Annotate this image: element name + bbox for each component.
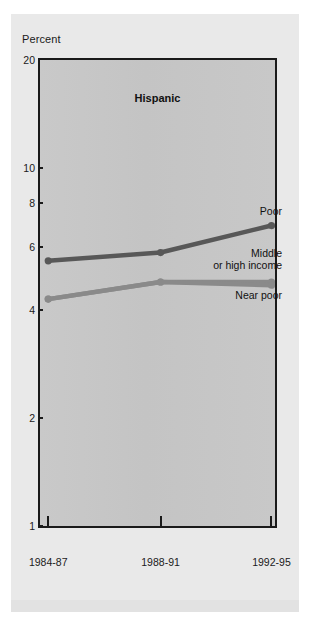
x-tick-label: 1984-87	[29, 556, 68, 568]
y-tick-mark	[38, 525, 43, 527]
y-tick-label: 20	[23, 54, 35, 66]
y-tick-mark	[38, 246, 43, 248]
y-tick-mark	[38, 202, 43, 204]
chart-title: Hispanic	[38, 92, 277, 104]
x-tick-mark	[160, 516, 162, 528]
y-tick-label: 10	[23, 162, 35, 174]
x-tick-mark	[270, 516, 272, 528]
y-axis-labels: 201086421	[10, 0, 35, 626]
data-point	[268, 282, 275, 289]
x-tick-label: 1992-95	[252, 556, 291, 568]
series-annotation-middle-or-high-income: Middle or high income	[213, 248, 282, 271]
data-point	[45, 296, 52, 303]
y-tick-mark	[38, 417, 43, 419]
y-tick-label: 2	[29, 412, 35, 424]
x-tick-mark	[47, 516, 49, 528]
top-caption-sliver	[14, 0, 194, 5]
y-tick-mark	[38, 309, 43, 311]
data-point	[45, 257, 52, 264]
y-tick-label: 1	[29, 520, 35, 532]
series-annotation-poor: Poor	[260, 206, 282, 218]
data-point	[157, 278, 164, 285]
y-tick-label: 6	[29, 241, 35, 253]
y-tick-label: 8	[29, 197, 35, 209]
x-tick-label: 1988-91	[141, 556, 180, 568]
data-point	[268, 222, 275, 229]
data-point	[157, 249, 164, 256]
y-tick-mark	[38, 167, 43, 169]
series-annotation-near-poor: Near poor	[235, 290, 282, 302]
y-tick-label: 4	[29, 304, 35, 316]
